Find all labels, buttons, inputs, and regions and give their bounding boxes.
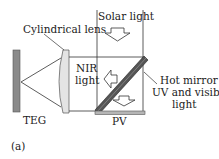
label-uv-visible-line2: light — [172, 98, 197, 110]
hot-mirror-leader — [144, 72, 157, 84]
solar-down-arrow-icon — [105, 28, 130, 41]
label-nir-line1: NIR — [76, 62, 98, 74]
lens-leader — [44, 34, 64, 50]
nir-left-arrow-shape — [104, 70, 117, 88]
label-hot-mirror: Hot mirror — [160, 74, 219, 86]
label-panel-a: (a) — [11, 140, 25, 152]
pv-down-arrow-icon — [113, 96, 135, 106]
solar-splitting-diagram: Cylindrical lens Solar light NIR light H… — [0, 0, 219, 159]
ray-bottom — [21, 82, 61, 107]
label-cylindrical-lens: Cylindrical lens — [23, 23, 106, 35]
label-nir-line2: light — [75, 74, 100, 86]
pv-bar — [95, 111, 145, 115]
label-teg: TEG — [23, 114, 46, 126]
label-pv: PV — [112, 115, 127, 127]
teg-bar — [13, 50, 20, 112]
label-solar-light: Solar light — [98, 10, 155, 22]
ray-top — [21, 58, 61, 82]
cylindrical-lens — [59, 50, 69, 113]
label-uv-visible-line1: UV and visible — [152, 86, 219, 98]
